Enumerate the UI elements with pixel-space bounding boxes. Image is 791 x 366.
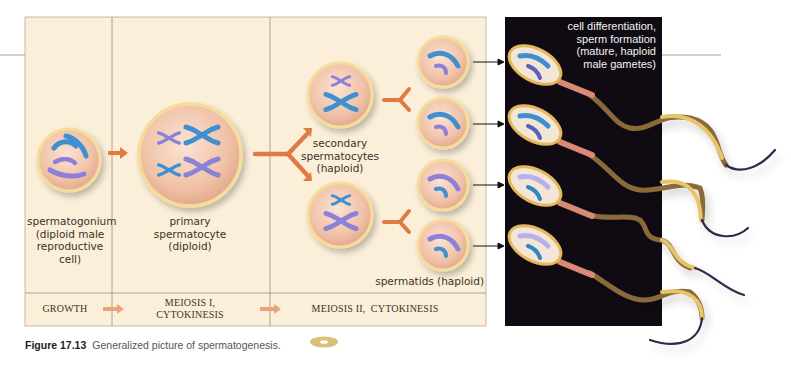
phase-meiosis-1: MEIOSIS I, CYTOKINESIS [140,297,240,321]
spermatogonium-cell [38,129,100,191]
label-line: spermatids (haploid) [370,275,484,288]
spermatid-4 [418,220,468,270]
label-secondary-spermatocytes: secondary spermatocytes (haploid) [288,137,392,175]
spermatogenesis-figure: spermatogonium (diploid male reproductiv… [0,0,791,366]
label-line: reproductive [27,240,113,253]
label-spermatids: spermatids (haploid) [370,275,484,288]
spermatid-3 [418,160,468,210]
spermatid-2 [418,98,468,148]
label-spermatogonium: spermatogonium (diploid male reproductiv… [27,215,113,265]
label-line: primary [140,215,240,228]
label-line: (diploid) [140,240,240,253]
label-line: cell) [27,253,113,266]
label-line: spermatocytes [288,150,392,163]
label-line: (mature, haploid [540,45,656,58]
figure-number: Figure 17.13 [25,339,86,351]
primary-spermatocyte-cell [139,104,241,206]
label-line: spermatocyte [140,228,240,241]
cd-disc-icon[interactable] [310,337,338,348]
label-line: sperm formation [540,33,656,46]
figure-caption-text: Generalized picture of spermatogenesis. [92,339,281,351]
label-line: (haploid) [288,162,392,175]
spermatid-1 [418,37,468,87]
secondary-spermatocyte-cell-1 [308,63,372,127]
label-line: spermatogonium [27,215,113,228]
phase-line: MEIOSIS II, CYTOKINESIS [285,303,465,315]
phase-line: GROWTH [27,303,103,315]
label-sperm-formation: cell differentiation, sperm formation (m… [540,20,656,70]
label-line: (diploid male [27,228,113,241]
phase-line: CYTOKINESIS [140,309,240,321]
label-primary-spermatocyte: primary spermatocyte (diploid) [140,215,240,253]
label-line: secondary [288,137,392,150]
figure-caption: Figure 17.13Generalized picture of sperm… [25,339,281,351]
label-line: cell differentiation, [540,20,656,33]
phase-growth: GROWTH [27,303,103,315]
secondary-spermatocyte-cell-2 [308,183,372,247]
label-line: male gametes) [540,58,656,71]
phase-meiosis-2: MEIOSIS II, CYTOKINESIS [285,303,465,315]
phase-line: MEIOSIS I, [140,297,240,309]
